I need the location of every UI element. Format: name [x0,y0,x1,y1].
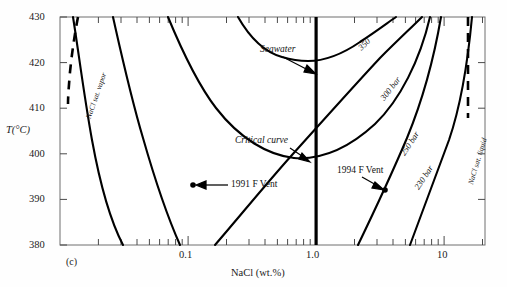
seawater-label: Seawater [260,44,295,54]
y-tick-label-400: 400 [29,148,45,159]
y-tick-label-430: 430 [29,11,45,22]
y-tick-label-390: 390 [29,193,45,204]
vent-1994-label: 1994 F Vent [337,165,383,175]
x-tick-label-1-0: 1.0 [306,249,319,260]
x-tick-label-0-1: 0.1 [179,249,192,260]
y-tick-label-420: 420 [29,57,45,68]
critical-curve-label: Critical curve [235,135,288,145]
y-tick-label-410: 410 [29,102,45,113]
phase-diagram-figure: 430 420 410 400 390 380 T(°C) 0.1 1.0 10… [0,0,507,287]
panel-label: (c) [66,256,77,267]
y-tick-label-380: 380 [29,239,45,250]
y-axis-title: T(°C) [6,124,30,135]
vent-1991-label: 1991 F Vent [231,179,277,189]
x-axis-title: NaCl (wt.%) [231,267,285,278]
x-tick-label-10: 10 [437,249,448,260]
